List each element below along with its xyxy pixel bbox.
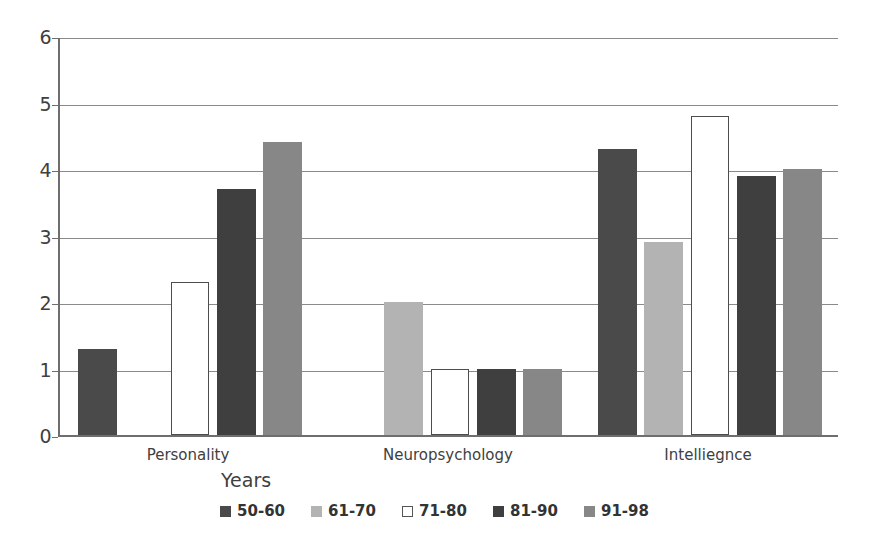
legend-label: 61-70	[328, 503, 376, 520]
x-axis-title: Years	[221, 470, 271, 491]
bar	[78, 349, 117, 435]
legend-label: 81-90	[510, 503, 558, 520]
bar	[217, 189, 256, 435]
legend-label: 71-80	[419, 503, 467, 520]
y-tick-label: 1	[6, 361, 52, 380]
legend-item[interactable]: 71-80	[402, 503, 467, 520]
bar	[431, 369, 470, 436]
legend-swatch-icon	[584, 506, 595, 517]
legend-item[interactable]: 91-98	[584, 503, 649, 520]
y-tick-label: 4	[6, 161, 52, 180]
legend-swatch-icon	[493, 506, 504, 517]
legend-item[interactable]: 61-70	[311, 503, 376, 520]
legend-swatch-icon	[311, 506, 322, 517]
legend-swatch-icon	[220, 506, 231, 517]
legend-item[interactable]: 50-60	[220, 503, 285, 520]
legend-swatch-icon	[402, 506, 413, 517]
y-tick-label: 6	[6, 28, 52, 47]
y-tick-label: 3	[6, 228, 52, 247]
bar	[644, 242, 683, 435]
bar	[783, 169, 822, 435]
bar-chart: 0123456 PersonalityNeuropsychologyIntell…	[0, 0, 869, 545]
y-tick-label: 0	[6, 427, 52, 446]
bar	[263, 142, 302, 435]
bar	[523, 369, 562, 436]
x-axis-category-label: Neuropsychology	[318, 447, 578, 464]
y-axis: 0123456	[0, 38, 52, 437]
plot-area	[58, 38, 838, 437]
x-axis-category-label: Personality	[58, 447, 318, 464]
legend-label: 91-98	[601, 503, 649, 520]
bar	[691, 116, 730, 435]
bars-layer	[60, 38, 838, 435]
bar	[384, 302, 423, 435]
bar	[477, 369, 516, 436]
x-axis-category-label: Intelliegnce	[578, 447, 838, 464]
legend-item[interactable]: 81-90	[493, 503, 558, 520]
legend-label: 50-60	[237, 503, 285, 520]
y-tickmark	[52, 437, 58, 438]
y-tick-label: 2	[6, 294, 52, 313]
bar	[598, 149, 637, 435]
bar	[171, 282, 210, 435]
chart-legend: 50-6061-7071-8081-9091-98	[0, 503, 869, 520]
bar	[737, 176, 776, 435]
y-tick-label: 5	[6, 95, 52, 114]
